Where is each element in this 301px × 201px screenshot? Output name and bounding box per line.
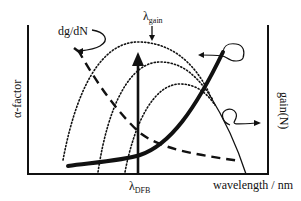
gain-right-edge (209, 94, 246, 174)
lambda-gain-label: λgain (143, 9, 163, 25)
alpha-axis-pointer-arrowhead (198, 52, 204, 58)
dgdn-label: dg/dN (58, 24, 88, 38)
lambda-gain-arrowhead (149, 35, 155, 41)
lambda-dfb-arrowhead (132, 52, 144, 66)
lambda-dfb-label: λDFB (129, 179, 150, 195)
alpha-factor-gain-diagram: dg/dN λgain λDFB wavelength / nm α-facto… (0, 0, 301, 201)
alpha-factor-curve (68, 52, 223, 166)
gain-curve-middle (98, 62, 213, 172)
x-axis-label: wavelength / nm (213, 178, 294, 192)
y-right-label: gain(N) (277, 92, 291, 129)
gain-axis-pointer-loop (223, 109, 256, 125)
gain-axis-pointer-arrowhead (254, 120, 261, 126)
y-left-label: α-factor (10, 80, 24, 118)
